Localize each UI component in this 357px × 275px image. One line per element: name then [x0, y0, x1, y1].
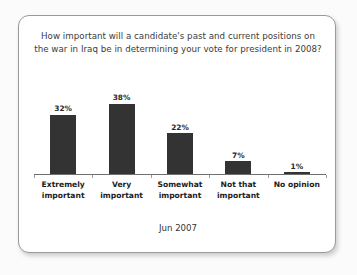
chart-title: How important will a candidate's past an…: [33, 30, 323, 55]
chart-card: How important will a candidate's past an…: [18, 15, 336, 253]
bar-value-label: 22%: [171, 123, 189, 132]
bar: [50, 115, 76, 174]
category-label: Not thatimportant: [209, 180, 267, 201]
category-label: Extremelyimportant: [34, 180, 92, 201]
x-axis-category-labels: ExtremelyimportantVeryimportantSomewhati…: [34, 180, 326, 210]
bar-column: 22%: [151, 100, 209, 174]
category-label-line: Extremely: [34, 180, 92, 191]
bar-column: 32%: [34, 100, 92, 174]
bar-column: 1%: [268, 100, 326, 174]
bar-value-label: 32%: [54, 104, 72, 113]
x-axis-tick: [209, 175, 210, 178]
bar: [167, 133, 193, 174]
x-axis-tick: [34, 175, 35, 178]
bar-plot-area: 32%38%22%7%1%: [34, 100, 326, 174]
bar-column: 7%: [209, 100, 267, 174]
category-label: Somewhatimportant: [151, 180, 209, 201]
category-label: No opinion: [268, 180, 326, 191]
bar-column: 38%: [92, 100, 150, 174]
bar-value-label: 7%: [232, 151, 245, 160]
category-label-line: important: [92, 191, 150, 202]
x-axis-tick: [268, 175, 269, 178]
x-axis-line: [34, 174, 326, 175]
category-label: Veryimportant: [92, 180, 150, 201]
bar-value-label: 1%: [291, 162, 304, 171]
chart-footer-date: Jun 2007: [19, 223, 337, 233]
bar: [109, 104, 135, 174]
category-label-line: No opinion: [268, 180, 326, 191]
x-axis-tick: [151, 175, 152, 178]
x-axis-tick: [326, 175, 327, 178]
bar: [225, 161, 251, 174]
category-label-line: important: [34, 191, 92, 202]
category-label-line: important: [209, 191, 267, 202]
category-label-line: Very: [92, 180, 150, 191]
category-label-line: important: [151, 191, 209, 202]
x-axis-tick: [92, 175, 93, 178]
category-label-line: Somewhat: [151, 180, 209, 191]
bar-value-label: 38%: [113, 93, 131, 102]
category-label-line: Not that: [209, 180, 267, 191]
